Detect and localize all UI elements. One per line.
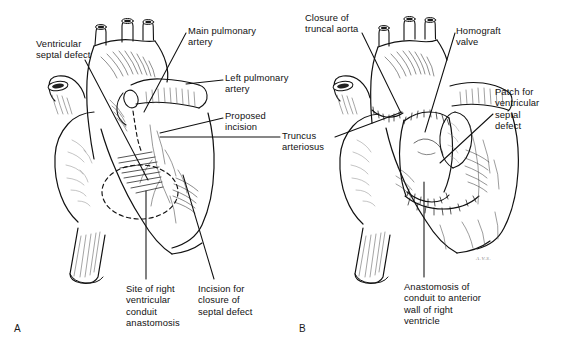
leader-homograft-valve	[425, 33, 455, 132]
label-patch-for-ventricular-septal-defect: Patch for ventricular septal defect	[495, 86, 539, 132]
label-incision-for-closure-of-septal-defect: Incision for closure of septal defect	[198, 283, 252, 317]
artist-signature: A.V.S.	[476, 256, 491, 261]
leader-proposed-incision	[160, 118, 223, 133]
leader-ventricular-septal-defect	[85, 60, 148, 180]
label-ventricular-septal-defect: Ventricular septal defect	[36, 38, 90, 61]
label-left-pulmonary-artery: Left pulmonary artery	[225, 72, 288, 95]
label-site-of-right-ventricular-conduit-anastomosis: Site of right ventricular conduit anasto…	[126, 283, 180, 329]
label-proposed-incision: Proposed incision	[225, 110, 266, 133]
panel-letter-a: A	[14, 323, 21, 334]
proposed-incision-line	[133, 111, 142, 153]
label-anastomosis-of-conduit-to-anterior-wall-of-right-ventricle: Anastomosis of conduit to anterior wall …	[404, 281, 481, 327]
leader-left-pulmonary-artery	[186, 80, 223, 84]
panel-letter-b: B	[299, 323, 306, 334]
medical-illustration-figure: Ventricular septal defect Main pulmonary…	[0, 0, 567, 357]
panel-a-leader-lines	[85, 33, 223, 279]
leader-closure-truncal-aorta	[362, 33, 401, 113]
panel-b-heart	[332, 17, 518, 284]
label-homograft-valve: Homograft valve	[456, 25, 501, 48]
leader-incision-closure-septal-defect	[183, 175, 214, 279]
label-closure-of-truncal-aorta: Closure of truncal aorta	[305, 12, 358, 35]
label-truncus-arteriosus: Truncus arteriosus	[282, 130, 324, 153]
label-main-pulmonary-artery: Main pulmonary artery	[188, 25, 256, 48]
